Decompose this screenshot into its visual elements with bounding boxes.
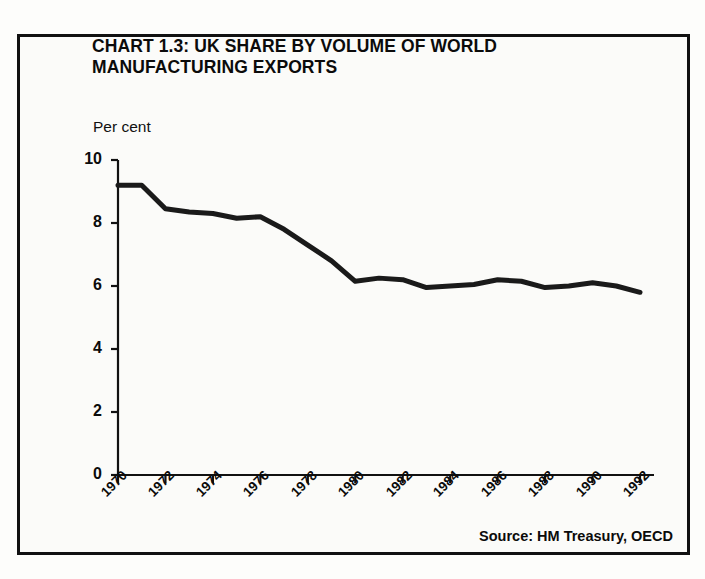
y-tick-label: 4 xyxy=(76,339,102,357)
y-tick-label: 0 xyxy=(76,465,102,483)
data-line-uk-share-of-world-manufacturing-exports xyxy=(118,185,640,292)
chart-page: CHART 1.3: UK SHARE BY VOLUME OF WORLD M… xyxy=(0,0,705,579)
y-tick-label: 10 xyxy=(76,150,102,168)
y-tick-label: 2 xyxy=(76,402,102,420)
y-tick-label: 8 xyxy=(76,213,102,231)
y-tick-label: 6 xyxy=(76,276,102,294)
source-note: Source: HM Treasury, OECD xyxy=(479,528,673,544)
